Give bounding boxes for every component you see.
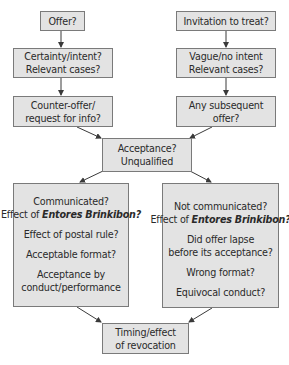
certainty-label-1: Certainty/intent? — [24, 50, 102, 63]
offer-label: Offer? — [48, 15, 76, 28]
arrow-communicated-to-revocation — [77, 307, 101, 322]
revocation-box: Timing/effect of revocation — [102, 323, 189, 354]
vague-label-2: Relevant cases? — [189, 63, 263, 76]
revocation-label-1: Timing/effect — [115, 326, 176, 339]
communicated-line-3: Effect of postal rule? — [24, 228, 119, 241]
acceptance-label-2: Unqualified — [121, 155, 173, 168]
certainty-label-2: Relevant cases? — [26, 63, 100, 76]
invitation-box: Invitation to treat? — [176, 11, 276, 31]
arrow-subsequent-to-acceptance — [190, 127, 212, 138]
vague-label-1: Vague/no intent — [189, 50, 262, 63]
communicated-line-4: Acceptable format? — [26, 248, 116, 261]
not-communicated-line-4: before its acceptance? — [168, 246, 272, 259]
arrow-acceptance-to-communicated — [80, 171, 103, 182]
not-communicated-line-5: Wrong format? — [186, 266, 254, 279]
subsequent-label-2: offer? — [213, 112, 239, 125]
acceptance-label-1: Acceptance? — [118, 142, 177, 155]
subsequent-offer-box: Any subsequent offer? — [176, 96, 276, 127]
counter-offer-label-2: request for info? — [25, 112, 100, 125]
invitation-label: Invitation to treat? — [183, 15, 268, 28]
revocation-label-2: of revocation — [115, 339, 175, 352]
not-communicated-line-3: Did offer lapse — [187, 233, 254, 246]
not-communicated-line-6: Equivocal conduct? — [176, 286, 265, 299]
case-name: Entores Brinkibon? — [42, 209, 141, 220]
counter-offer-label-1: Counter-offer/ — [31, 99, 95, 112]
case-name: Entores Brinkibon? — [192, 214, 289, 225]
certainty-box: Certainty/intent? Relevant cases? — [13, 48, 113, 78]
communicated-line-1: Communicated? — [33, 195, 109, 208]
acceptance-box: Acceptance? Unqualified — [102, 138, 192, 172]
counter-offer-box: Counter-offer/ request for info? — [13, 96, 113, 127]
communicated-line-5: Acceptance by — [37, 268, 105, 281]
arrow-counter-to-acceptance — [77, 127, 101, 138]
offer-box: Offer? — [40, 11, 85, 31]
subsequent-label-1: Any subsequent — [189, 99, 264, 112]
communicated-line-6: conduct/performance — [21, 281, 120, 294]
communicated-box: Communicated? Effect of Entores Brinkibo… — [13, 183, 129, 307]
not-communicated-line-2: Effect of Entores Brinkibon? — [150, 213, 289, 226]
arrow-not-communicated-to-revocation — [189, 308, 212, 322]
arrow-acceptance-to-not-communicated — [190, 171, 211, 182]
vague-box: Vague/no intent Relevant cases? — [176, 48, 276, 78]
communicated-line-2: Effect of Entores Brinkibon? — [1, 208, 141, 221]
not-communicated-box: Not communicated? Effect of Entores Brin… — [162, 183, 279, 308]
not-communicated-line-1: Not communicated? — [174, 200, 267, 213]
